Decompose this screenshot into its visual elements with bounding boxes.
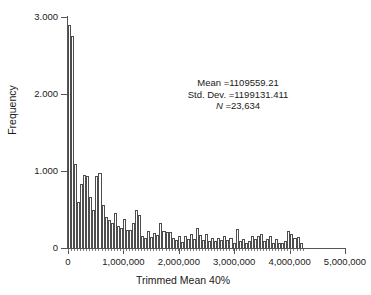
x-bin-tick xyxy=(303,249,304,251)
x-bin-tick xyxy=(260,249,261,251)
x-bin-tick xyxy=(269,249,270,251)
x-bin-tick xyxy=(205,249,206,251)
y-tick-label: 1.000 xyxy=(2,166,58,176)
std-dev-label: Std. Dev. =1199131.411 xyxy=(176,89,300,101)
x-bin-tick xyxy=(175,249,176,251)
x-bin-tick xyxy=(236,249,237,251)
x-bin-tick xyxy=(102,249,103,251)
x-bin-tick xyxy=(150,249,151,251)
x-tick xyxy=(345,249,346,254)
x-bin-tick xyxy=(229,249,230,251)
x-tick-label: 5,000,000 xyxy=(305,257,371,267)
x-bin-tick xyxy=(257,249,258,251)
x-bin-tick xyxy=(162,249,163,251)
plot-area xyxy=(68,17,345,248)
x-bin-tick xyxy=(275,249,276,251)
x-bin-tick xyxy=(144,249,145,251)
x-bin-tick xyxy=(111,249,112,251)
x-bin-tick xyxy=(226,249,227,251)
sample-size-label: N =23,634 xyxy=(176,100,300,112)
x-bin-tick xyxy=(199,249,200,251)
x-bin-tick xyxy=(202,249,203,251)
x-bin-tick xyxy=(172,249,173,251)
n-value: =23,634 xyxy=(223,100,260,111)
x-bin-tick xyxy=(178,249,179,251)
x-bin-tick xyxy=(166,249,167,251)
x-bin-tick xyxy=(138,249,139,251)
x-bin-tick xyxy=(108,249,109,251)
mean-label: Mean =1109559.21 xyxy=(176,77,300,89)
y-tick xyxy=(61,17,67,18)
x-bin-tick xyxy=(123,249,124,251)
y-tick xyxy=(61,94,67,95)
x-bin-tick xyxy=(74,249,75,251)
x-bin-tick xyxy=(80,249,81,251)
statistics-annotation: Mean =1109559.21 Std. Dev. =1199131.411 … xyxy=(176,77,300,112)
y-tick-label: 3.000 xyxy=(2,12,58,22)
x-bin-tick xyxy=(147,249,148,251)
x-bin-tick xyxy=(129,249,130,251)
x-bin-tick xyxy=(159,249,160,251)
x-bin-tick xyxy=(278,249,279,251)
x-bin-tick xyxy=(193,249,194,251)
x-bin-tick xyxy=(266,249,267,251)
x-bin-tick xyxy=(132,249,133,251)
x-bin-tick xyxy=(245,249,246,251)
x-bin-tick xyxy=(68,249,69,251)
y-tick xyxy=(61,248,67,249)
x-bin-tick xyxy=(114,249,115,251)
x-bin-tick xyxy=(272,249,273,251)
x-bin-tick xyxy=(217,249,218,251)
y-axis-title: Frequency xyxy=(6,62,18,158)
x-bin-tick xyxy=(190,249,191,251)
x-bin-tick xyxy=(135,249,136,251)
histogram-bar xyxy=(300,243,303,248)
x-bin-tick xyxy=(156,249,157,251)
x-bin-tick xyxy=(169,249,170,251)
x-bin-tick xyxy=(77,249,78,251)
x-bin-tick xyxy=(290,249,291,251)
x-tick xyxy=(179,249,180,254)
x-bin-tick xyxy=(208,249,209,251)
x-bin-tick xyxy=(187,249,188,251)
x-bin-tick xyxy=(220,249,221,251)
x-bin-tick xyxy=(184,249,185,251)
y-tick xyxy=(61,171,67,172)
x-bin-tick xyxy=(281,249,282,251)
x-bin-tick xyxy=(126,249,127,251)
x-bin-tick xyxy=(284,249,285,251)
x-bin-tick xyxy=(120,249,121,251)
x-bin-tick xyxy=(242,249,243,251)
x-bin-tick xyxy=(254,249,255,251)
x-bin-tick xyxy=(71,249,72,251)
x-bin-tick xyxy=(196,249,197,251)
x-bin-tick xyxy=(239,249,240,251)
x-bin-tick xyxy=(92,249,93,251)
x-bin-tick xyxy=(214,249,215,251)
x-bin-tick xyxy=(181,249,182,251)
x-bin-tick xyxy=(263,249,264,251)
x-bin-tick xyxy=(117,249,118,251)
x-bin-tick xyxy=(233,249,234,251)
x-bin-tick xyxy=(287,249,288,251)
x-bin-tick xyxy=(83,249,84,251)
x-bin-tick xyxy=(105,249,106,251)
x-bin-tick xyxy=(153,249,154,251)
x-bin-tick xyxy=(86,249,87,251)
x-bin-tick xyxy=(300,249,301,251)
x-bin-tick xyxy=(297,249,298,251)
n-symbol: N xyxy=(216,100,223,111)
x-bin-tick xyxy=(248,249,249,251)
x-bin-tick xyxy=(211,249,212,251)
x-axis-line xyxy=(67,248,346,249)
x-bin-tick xyxy=(95,249,96,251)
x-bin-tick xyxy=(293,249,294,251)
x-bin-tick xyxy=(141,249,142,251)
x-axis-title: Trimmed Mean 40% xyxy=(0,274,366,286)
x-bin-tick xyxy=(98,249,99,251)
x-bin-tick xyxy=(89,249,90,251)
y-tick-label: 0 xyxy=(2,243,58,253)
x-bin-tick xyxy=(251,249,252,251)
x-bin-tick xyxy=(223,249,224,251)
